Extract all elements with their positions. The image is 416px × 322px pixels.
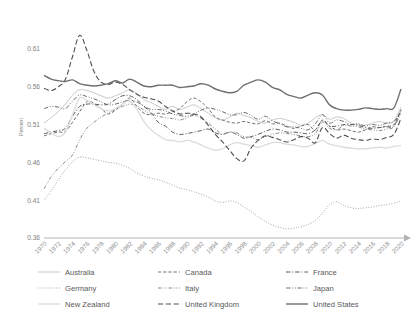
x-axis-tick-label: 1988 xyxy=(162,239,177,254)
y-axis-title: Percent xyxy=(18,118,24,136)
y-axis-tick-label: 0.51 xyxy=(27,121,40,128)
y-axis-tick-labels: 0.360.410.460.510.560.61 xyxy=(27,45,40,241)
series-line-canada xyxy=(44,98,401,136)
legend-label: Japan xyxy=(313,284,334,293)
x-axis-tick-label: 2020 xyxy=(390,239,405,254)
x-axis-tick-label: 2014 xyxy=(347,239,362,254)
y-axis-tick-label: 0.56 xyxy=(27,83,40,90)
x-axis-tick-labels: 1970197219741976197819801982198419861988… xyxy=(33,239,405,254)
y-axis-tick-label: 0.41 xyxy=(27,197,40,204)
x-axis-tick-label: 2018 xyxy=(376,239,391,254)
legend-label: United States xyxy=(313,300,359,309)
legend-label: United Kingdom xyxy=(185,300,239,309)
x-axis-tick-label: 1994 xyxy=(204,239,219,254)
legend-item-united-kingdom[interactable]: United Kingdom xyxy=(158,300,239,309)
series-line-united-states xyxy=(44,75,401,110)
y-axis-tick-label: 0.61 xyxy=(27,45,40,52)
series-line-united-kingdom xyxy=(44,35,401,161)
legend-item-italy[interactable]: Italy xyxy=(158,284,199,293)
legend-item-united-states[interactable]: United States xyxy=(286,300,359,309)
legend-label: Germany xyxy=(65,284,96,293)
x-axis-tick-label: 1976 xyxy=(76,239,91,254)
series-lines xyxy=(44,35,401,229)
x-axis-tick-label: 2010 xyxy=(319,239,334,254)
y-axis-tick-label: 0.46 xyxy=(27,159,40,166)
y-axis-title-text: Percent xyxy=(18,118,24,136)
legend-item-france[interactable]: France xyxy=(286,268,337,277)
x-axis-tick-label: 2004 xyxy=(276,239,291,254)
legend-item-germany[interactable]: Germany xyxy=(38,284,96,293)
x-axis-tick-label: 2006 xyxy=(290,239,305,254)
x-axis-tick-label: 1998 xyxy=(233,239,248,254)
line-chart: 0.360.410.460.510.560.61 Percent 1970197… xyxy=(0,0,416,322)
legend-label: New Zealand xyxy=(65,300,110,309)
x-axis-tick-label: 1982 xyxy=(119,239,134,254)
x-axis-arrow-icon xyxy=(404,235,411,242)
series-line-germany xyxy=(44,157,401,229)
x-axis-tick-label: 1978 xyxy=(90,239,105,254)
x-axis-tick-label: 1986 xyxy=(147,239,162,254)
legend-label: Italy xyxy=(185,284,199,293)
legend-label: France xyxy=(313,268,337,277)
chart-container: 0.360.410.460.510.560.61 Percent 1970197… xyxy=(0,0,416,322)
x-axis-tick-label: 1980 xyxy=(104,239,119,254)
x-axis-tick-label: 2012 xyxy=(333,239,348,254)
x-axis-tick-label: 1992 xyxy=(190,239,205,254)
x-axis-tick-label: 2016 xyxy=(361,239,376,254)
x-axis-tick-label: 2002 xyxy=(262,239,277,254)
series-line-italy xyxy=(44,104,401,189)
x-axis-tick-label: 1972 xyxy=(47,239,62,254)
legend-label: Australia xyxy=(65,268,95,277)
series-line-france xyxy=(44,95,401,138)
x-axis-tick-label: 1990 xyxy=(176,239,191,254)
legend-item-canada[interactable]: Canada xyxy=(158,268,212,277)
legend-item-new-zealand[interactable]: New Zealand xyxy=(38,300,110,309)
legend-item-australia[interactable]: Australia xyxy=(38,268,95,277)
legend-label: Canada xyxy=(185,268,212,277)
x-axis-tick-label: 1974 xyxy=(62,239,77,254)
x-axis-tick-label: 1970 xyxy=(33,239,48,254)
legend-item-japan[interactable]: Japan xyxy=(286,284,334,293)
y-axis-tick-label: 0.36 xyxy=(27,234,40,241)
x-axis-tick-label: 1984 xyxy=(133,239,148,254)
chart-legend: AustraliaCanadaFranceGermanyItalyJapanNe… xyxy=(38,268,359,309)
x-axis-tick-label: 2000 xyxy=(247,239,262,254)
x-axis-tick-label: 2008 xyxy=(304,239,319,254)
x-axis-tick-label: 1996 xyxy=(219,239,234,254)
